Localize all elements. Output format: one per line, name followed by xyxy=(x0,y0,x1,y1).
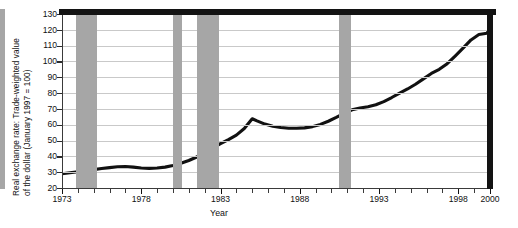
gridline-100 xyxy=(62,61,490,62)
gridline-70 xyxy=(62,109,490,110)
gridline-110 xyxy=(62,46,490,47)
y-tick-label-100: 100 xyxy=(31,57,57,66)
y-tick-label-80: 80 xyxy=(31,89,57,98)
y-tick-label-90: 90 xyxy=(31,73,57,82)
x-axis-title-text: Year xyxy=(210,208,228,218)
x-tick-mark-1991 xyxy=(347,189,348,193)
y-tick-label-120: 120 xyxy=(31,26,57,35)
x-tick-mark-1985 xyxy=(252,189,253,193)
x-tick-mark-1992 xyxy=(363,189,364,193)
x-tick-mark-1999 xyxy=(474,189,475,193)
x-tick-mark-1974 xyxy=(78,189,79,193)
x-tick-mark-1987 xyxy=(284,189,285,193)
gridline-80 xyxy=(62,93,490,94)
y-tick-label-60: 60 xyxy=(31,120,57,129)
gridline-90 xyxy=(62,77,490,78)
y-tick-label-130: 130 xyxy=(31,10,57,19)
gridline-40 xyxy=(62,156,490,157)
recession-1981-1982 xyxy=(197,14,219,188)
y-axis-tick-labels: 2030405060708090100110120130 xyxy=(31,0,57,200)
y-tick-label-50: 50 xyxy=(31,136,57,145)
x-tick-label-1993: 1993 xyxy=(369,194,388,204)
data-line-svg xyxy=(62,14,490,188)
series-line-real-exchange-rate xyxy=(62,29,490,174)
x-tick-label-1998: 1998 xyxy=(449,194,468,204)
x-tick-label-1973: 1973 xyxy=(52,194,71,204)
recession-1990-1991 xyxy=(339,14,350,188)
x-axis-title: Year xyxy=(0,208,518,218)
gridline-120 xyxy=(62,30,490,31)
x-tick-mark-1981 xyxy=(189,189,190,193)
gridline-50 xyxy=(62,141,490,142)
x-axis-tick-labels: 1973197819831988199319982000 xyxy=(0,194,518,208)
plot-frame-right xyxy=(487,9,493,189)
x-tick-mark-1979 xyxy=(157,189,158,193)
plot-frame-left xyxy=(62,14,63,189)
plot-area xyxy=(62,14,490,188)
x-tick-mark-1982 xyxy=(205,189,206,193)
x-tick-mark-1980 xyxy=(173,189,174,193)
y-axis-title-line-1: Real exchange rate: Trade-weighted value xyxy=(12,38,21,196)
chart-figure: Real exchange rate: Trade-weighted value… xyxy=(0,0,518,228)
x-tick-mark-1984 xyxy=(236,189,237,193)
y-tick-label-20: 20 xyxy=(31,184,57,193)
x-tick-mark-1977 xyxy=(125,189,126,193)
y-tick-label-70: 70 xyxy=(31,105,57,114)
y-tick-label-30: 30 xyxy=(31,168,57,177)
x-tick-label-1988: 1988 xyxy=(290,194,309,204)
y-tick-label-110: 110 xyxy=(31,41,57,50)
x-tick-mark-1975 xyxy=(94,189,95,193)
gridline-60 xyxy=(62,125,490,126)
x-tick-label-1978: 1978 xyxy=(132,194,151,204)
x-tick-mark-1996 xyxy=(427,189,428,193)
gridline-30 xyxy=(62,172,490,173)
recession-1973-1975 xyxy=(76,14,97,188)
x-tick-label-2000: 2000 xyxy=(480,194,499,204)
y-tick-label-40: 40 xyxy=(31,152,57,161)
x-tick-mark-1997 xyxy=(442,189,443,193)
recession-1980 xyxy=(173,14,182,188)
x-tick-mark-1976 xyxy=(110,189,111,193)
x-tick-label-1983: 1983 xyxy=(211,194,230,204)
x-tick-mark-1990 xyxy=(331,189,332,193)
x-tick-mark-1994 xyxy=(395,189,396,193)
plot-frame-top xyxy=(59,9,496,15)
y-axis-title: Real exchange rate: Trade-weighted value… xyxy=(0,0,34,200)
x-tick-mark-1995 xyxy=(411,189,412,193)
x-tick-mark-1989 xyxy=(316,189,317,193)
recession-band-edge-2000 xyxy=(0,9,5,189)
x-tick-mark-1986 xyxy=(268,189,269,193)
